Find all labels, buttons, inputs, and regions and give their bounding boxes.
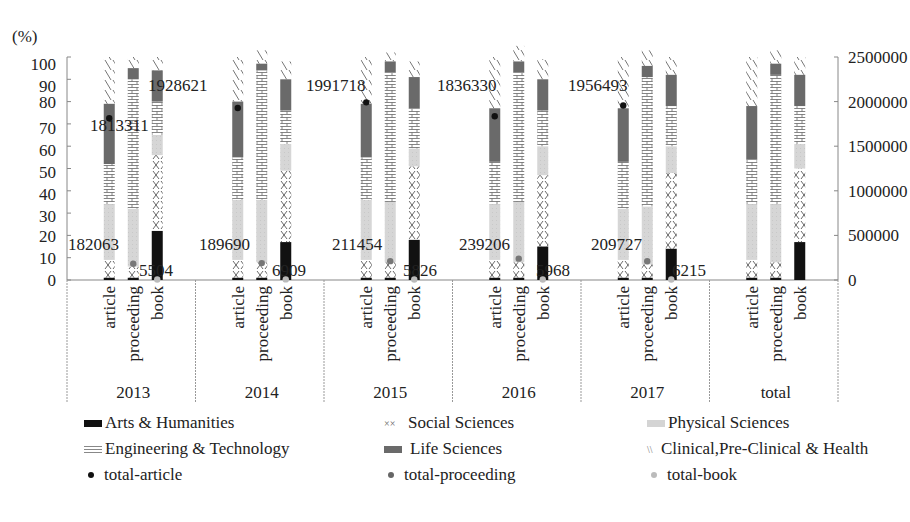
right-tick-label: 0 [848, 271, 857, 290]
bar-segment [489, 278, 500, 280]
bar-segment [232, 278, 243, 280]
bar-segment [409, 108, 420, 148]
bar-segment [280, 144, 291, 171]
bar-segment [128, 79, 139, 208]
legend-life-sciences: Life Sciences [384, 439, 502, 459]
bar-type-label: proceeding [381, 286, 400, 362]
bar-segment [361, 157, 372, 199]
total-dot [620, 102, 626, 108]
bar-segment [513, 262, 524, 278]
bar-segment [666, 75, 677, 106]
bar-segment [642, 206, 653, 264]
book-total-label: 5968 [536, 261, 570, 280]
bar-segment [642, 66, 653, 77]
bar-segment [537, 111, 548, 147]
bar-type-label: article [100, 286, 119, 328]
left-tick-label: 40 [39, 185, 56, 204]
book-total-label: 6215 [672, 261, 706, 280]
bar-segment [104, 57, 115, 104]
right-tick-label: 2500000 [848, 48, 908, 67]
bar-segment [152, 155, 163, 231]
total-dot [644, 258, 650, 264]
bar-type-label: book [534, 286, 553, 321]
diagonal-swatch-icon: \\ [647, 444, 661, 455]
bar-segment [794, 169, 805, 243]
bar-segment [489, 162, 500, 204]
left-tick-label: 60 [39, 141, 56, 160]
bar-segment [746, 160, 757, 205]
legend-total-article: total-article [84, 465, 182, 485]
bar-segment [666, 146, 677, 173]
bar-segment [770, 262, 781, 278]
bar-segment [618, 162, 629, 209]
bar-segment [794, 106, 805, 144]
bar-segment [537, 79, 548, 110]
book-total-label: 6909 [272, 261, 306, 280]
total-dot [387, 258, 393, 264]
bar-segment [385, 53, 396, 62]
bar-segment [642, 50, 653, 66]
bar-segment [152, 135, 163, 155]
bar-segment [385, 278, 396, 280]
cross-swatch-icon: ×× [384, 418, 402, 429]
legend-arts-humanities: Arts & Humanities [84, 413, 234, 433]
bar-segment [385, 61, 396, 72]
bar-segment [361, 260, 372, 278]
bar-segment [128, 278, 139, 280]
bar-segment [618, 108, 629, 162]
bar-segment [409, 166, 420, 240]
bar-segment [256, 50, 267, 63]
bar-segment [770, 204, 781, 262]
group-label: 2017 [630, 383, 665, 402]
bar-segment [256, 278, 267, 280]
legend-total-book: total-book [647, 465, 737, 485]
bar-type-label: book [277, 286, 296, 321]
proceeding-total-label: 182063 [68, 235, 119, 254]
proceeding-total-label: 239206 [459, 235, 510, 254]
total-dot [363, 99, 369, 105]
brick-swatch-icon [84, 446, 102, 453]
group-label: 2015 [373, 383, 407, 402]
bar-segment [280, 61, 291, 79]
bar-segment [794, 242, 805, 280]
right-tick-label: 2000000 [848, 93, 908, 112]
left-tick-label: 10 [39, 249, 56, 268]
bar-segment [128, 267, 139, 278]
article-total-label: 1813311 [90, 116, 149, 135]
bar-segment [409, 148, 420, 166]
bar-type-label: article [486, 286, 505, 328]
total-dot [516, 255, 522, 261]
bar-segment [128, 57, 139, 68]
proceeding-total-label: 189690 [199, 235, 250, 254]
bar-segment [256, 64, 267, 71]
bar-type-label: proceeding [638, 286, 657, 362]
bar-segment [104, 164, 115, 204]
legend-total-proceeding: total-proceeding [384, 465, 515, 485]
bar-segment [770, 278, 781, 280]
bar-segment [642, 77, 653, 206]
bar-segment [232, 260, 243, 278]
bar-segment [513, 46, 524, 62]
bar-segment [128, 68, 139, 79]
bar-segment [280, 171, 291, 242]
left-tick-label: 90 [39, 77, 56, 96]
bar-segment [770, 50, 781, 63]
bar-segment [409, 61, 420, 77]
article-total-label: 1836330 [437, 76, 497, 95]
bar-type-label: book [148, 286, 167, 321]
bar-segment [280, 79, 291, 110]
bar-segment [642, 264, 653, 277]
bar-segment [794, 144, 805, 169]
proceeding-total-label: 211454 [332, 235, 383, 254]
legend-engineering-technology: Engineering & Technology [84, 439, 290, 459]
bar-type-label: article [743, 286, 762, 328]
bar-segment [256, 70, 267, 199]
left-tick-label: 50 [39, 163, 56, 182]
bar-type-label: book [405, 286, 424, 321]
bar-segment [409, 77, 420, 108]
bar-segment [232, 57, 243, 102]
legend-social-sciences: ×× Social Sciences [384, 413, 514, 433]
dark-gray-swatch-icon [384, 446, 402, 453]
article-total-label: 1928621 [148, 76, 208, 95]
bar-segment [128, 209, 139, 267]
